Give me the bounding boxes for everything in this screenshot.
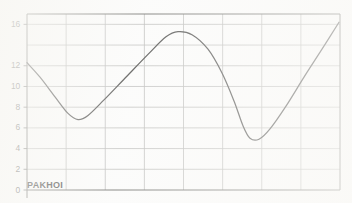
y-axis-tick-6: 6 xyxy=(3,123,20,132)
y-axis-tick-16: 16 xyxy=(3,20,20,29)
plot-area xyxy=(0,0,352,203)
data-line-pakhoi xyxy=(27,22,339,140)
y-axis-tick-4: 4 xyxy=(3,144,20,153)
axis-frame xyxy=(24,14,341,198)
series-label-pakhoi: PAKHOI xyxy=(27,180,63,190)
y-axis-tick-2: 2 xyxy=(3,165,20,174)
chart-figure: 16121086420 PAKHOI xyxy=(0,0,352,203)
y-axis-tick-10: 10 xyxy=(3,82,20,91)
y-axis-tick-12: 12 xyxy=(3,61,20,70)
y-axis-tick-0: 0 xyxy=(3,186,20,195)
y-axis-tick-8: 8 xyxy=(3,103,20,112)
